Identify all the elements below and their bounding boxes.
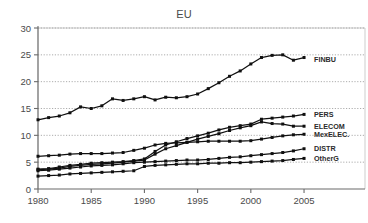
legend-label-otherg: OtherG [314,154,339,163]
x-tick-label: 1995 [187,195,208,206]
legend-label-distr: DISTR [314,144,336,153]
data-series [37,53,306,177]
x-tick-label: 2000 [240,195,261,206]
legend-label-finbu: FINBU [314,55,336,64]
x-tick-label: 1985 [81,195,102,206]
y-tick-label: 0 [26,184,31,195]
x-tick-label: 1980 [27,195,48,206]
x-tick-label: 1990 [134,195,155,206]
series-distr [37,147,306,172]
chart-container: 051015202530 198019851990199520002005 FI… [0,0,368,223]
chart-title: EU [176,8,191,20]
line-chart: 051015202530 198019851990199520002005 FI… [0,0,368,223]
legend-label-pers: PERS [314,110,334,119]
x-axis-ticks: 198019851990199520002005 [27,189,314,206]
chart-legend: FINBUPERSELECOMMexELEC.DISTROtherG [314,55,349,163]
series-elecom [37,120,306,171]
y-tick-label: 20 [20,76,31,87]
x-tick-label: 2005 [293,195,314,206]
y-tick-label: 15 [20,103,31,114]
y-tick-label: 30 [20,23,31,34]
y-tick-label: 5 [26,157,31,168]
y-tick-label: 10 [20,130,31,141]
series-finbu [37,53,306,121]
y-tick-label: 25 [20,49,31,60]
legend-label-mexelec: MexELEC. [314,130,349,139]
y-axis-ticks: 051015202530 [20,23,38,195]
